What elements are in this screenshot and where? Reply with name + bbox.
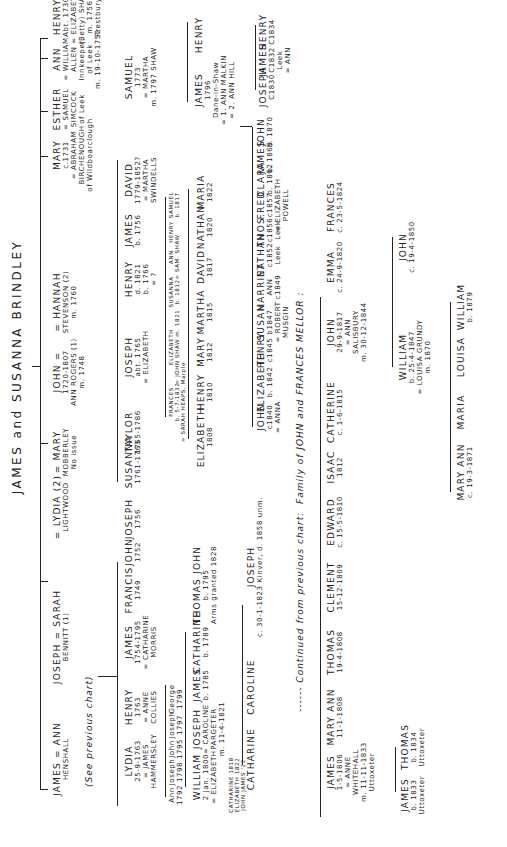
title-connector xyxy=(32,366,40,367)
person-catherine-1815: CATHERINEc. 1-6-1815 xyxy=(326,381,344,443)
continued-note: ------ Continued from previous chart: Fa… xyxy=(295,292,305,712)
person-david-1817: DAVID1817 xyxy=(196,250,214,284)
person-william-1800: WILLIAM2 Jan. 1800 = ELIZABETH xyxy=(192,750,218,803)
person-esther: ESTHER= SAMUEL SIMCOCK of Leek xyxy=(52,88,86,131)
person-mary-1812: MARY1812 xyxy=(196,337,214,367)
person-james-1756: JAMESb. 1756 xyxy=(124,213,142,247)
person-thomas-1834: THOMASb. 1834 Uttoxeter xyxy=(400,724,426,770)
person-maria: MARIA xyxy=(456,395,466,430)
person-mary-ann-1808: MARY ANN11-1-1808 xyxy=(326,688,344,745)
person-william-1847: WILLIAMb. 25-4-1847 = LOUISA GRUNDY m. 1… xyxy=(398,320,432,395)
person-nathan-1820: NATHAN1820 xyxy=(196,205,214,250)
person-joseph-1823: JOSEPHc. 30-1-1823 Kinver, d. 1858 unm. xyxy=(246,497,264,637)
person-clement-1809: CLEMENT15-12-1809 xyxy=(326,561,344,612)
person-james-1785: JAMESb. 1785 xyxy=(192,668,210,702)
gen1-bracket xyxy=(40,38,41,790)
see-previous-note: (See previous chart) xyxy=(84,675,94,787)
person-thomas-1808: THOMAS19-4-1808 xyxy=(326,629,344,675)
person-edward-1810: EDWARDc. 15-5-1810 xyxy=(326,496,344,548)
person-joseph-1756: JOSEPH1756 xyxy=(124,499,142,540)
person-john-1870: JOHNb. 1870 xyxy=(256,117,274,148)
person-samuel-1817: SAMUEL b. 1817 xyxy=(168,192,180,218)
joseph-caroline-children-bracket xyxy=(242,605,243,765)
person-louisa: LOUISA xyxy=(456,337,466,377)
person-catharine: CATHARINE xyxy=(246,728,256,790)
person-emma-1820: EMMAc. 24-9-1820 xyxy=(326,241,344,293)
person-isaac-1812: ISAAC1812 xyxy=(326,450,344,483)
person-john-1752: JOHN1752 xyxy=(124,538,142,566)
ann-hill-children-bracket xyxy=(255,25,256,90)
person-caroline: CAROLINE xyxy=(246,659,256,714)
person-john-1817: JOHN29-9-1817 = ANN SALISBURY m. 30-12-1… xyxy=(326,302,368,362)
joseph1765-children-bracket xyxy=(165,197,166,417)
lydia-children-bracket xyxy=(165,685,166,797)
mellor-children-bracket xyxy=(320,297,321,817)
drop xyxy=(40,156,48,157)
person-henry-1834: HENRYC1834 xyxy=(258,14,276,50)
person-henry-1810: HENRY1810 xyxy=(196,374,214,410)
person-james-1796: JAMES1796 Dane-in-Shaw = 1. ANN MALKIN =… xyxy=(194,55,236,125)
person-susanna-1812: SUSANNA b. 1812 xyxy=(168,276,180,307)
person-joseph-1798: Joseph 1798 xyxy=(168,759,184,786)
drop xyxy=(40,111,48,112)
henry-children-bracket xyxy=(188,189,189,439)
samuel-children-bracket xyxy=(187,22,188,102)
person-james-1754: JAMES1754-1795 = CATHARINE MORRIS xyxy=(124,615,158,670)
person-thomas-john-1795: THOMAS JOHNb. 1795 Arms granted 1828 xyxy=(192,546,218,624)
person-francis-1749: FRANCIS1749 xyxy=(124,566,142,613)
person-henry-1763: HENRY1763 = ANNE COLLIES xyxy=(124,689,158,725)
person-mary-mobberley: = MARYMOBBERLEY No issue xyxy=(52,428,78,476)
william1847-children-bracket xyxy=(450,302,451,492)
person-henry: HENRY xyxy=(168,221,174,243)
drop xyxy=(40,581,48,582)
person-john-1795: John 1795 xyxy=(168,739,184,759)
person-james-ann: JAMES = ANNHENSHALL xyxy=(52,722,70,796)
person-henry-samuel: HENRY xyxy=(194,17,204,53)
person-hannah-stevenson: = HANNAHSTEVENSON (2) m. 1760 xyxy=(52,271,78,334)
person-samuel-1773: SAMUEL1773 = MARTHA m. 1797 SHAW xyxy=(124,47,158,107)
drop xyxy=(40,58,48,59)
person-joseph-1765: JOSEPHabt. 1765 = ELIZABETH xyxy=(124,330,150,383)
joseph-children-bracket xyxy=(117,562,118,806)
person-elizabeth-shaw: ELIZABETH = JOHN SHAW m. 1821 xyxy=(168,310,180,385)
family-tree-chart: JAMES and SUSANNA BRINDLEY JAMES = ANNHE… xyxy=(0,0,507,847)
person-maria-1822: MARIA1822 xyxy=(196,175,214,210)
drop xyxy=(40,789,48,790)
person-john-1850: JOHNc. 19-4-1850 xyxy=(398,221,416,273)
person-henry-1730: HENRYAbt. 1730 = ELIZABETH (Betty) SHAW … xyxy=(52,0,102,44)
person-george-1799: George 1799 xyxy=(168,684,184,713)
person-martha-1815: MARTHA1815 xyxy=(196,289,214,334)
person-david-1779: DAVID1779-1852? = MARTHA SWINDELLS xyxy=(124,156,158,204)
person-john: JOHN =1720-1807 ANN ROGERS (1) m. 1748 xyxy=(52,338,86,406)
john1817-children-bracket xyxy=(392,237,393,367)
person-joseph-sarah: JOSEPH = SARAHBENNITT (1) xyxy=(52,590,70,684)
person-james-1806: JAMES1-5-1806 = ANNE WHITEHALL m. 11-11-… xyxy=(326,742,376,802)
person-lydia-1763: LYDIA25-9-1763 = JAMES HAMMERSLEY xyxy=(124,734,158,788)
chart-title: JAMES and SUSANNA BRINDLEY xyxy=(10,240,24,495)
malkin-children-bracket xyxy=(252,127,253,427)
person-taylor-1765: TAYLOR1765-1786 xyxy=(124,410,142,454)
person-frances-1824: FRANCESc. 23-5-1824 xyxy=(326,181,344,233)
john-children-bracket xyxy=(117,160,118,482)
person-james-1833: JAMESb. 1833 Uttoxeter xyxy=(400,776,426,814)
person-joseph-caroline: JOSEPH= CAROLINE PARGETER m. 11-4-1821 xyxy=(192,702,226,757)
person-lydia-lightwood: = LYDIA (2)LIGHTWOOD xyxy=(52,475,70,539)
james1806-children-bracket xyxy=(395,747,396,792)
person-ann-1792: Ann 1792 xyxy=(168,785,184,805)
drop xyxy=(98,676,117,677)
person-henry-1766: HENRYd. 1821 b. 1766 = ? xyxy=(124,261,158,297)
drop xyxy=(40,443,48,444)
person-william-1879: WILLIAMb. 1879 xyxy=(456,284,474,331)
drop xyxy=(40,38,48,39)
james-children-bracket xyxy=(185,632,186,787)
person-joseph-1797: Joseph 1797 xyxy=(168,712,184,739)
drop xyxy=(240,126,252,127)
william-children-note: CATHARINE 1818 ELIZABETH 1822 JOHN JAMES… xyxy=(228,757,246,813)
person-elizabeth-1808: ELIZABETH1808 xyxy=(196,407,214,468)
person-mary-ann-1871: MARY ANNc. 19-3-1871 xyxy=(456,443,474,500)
